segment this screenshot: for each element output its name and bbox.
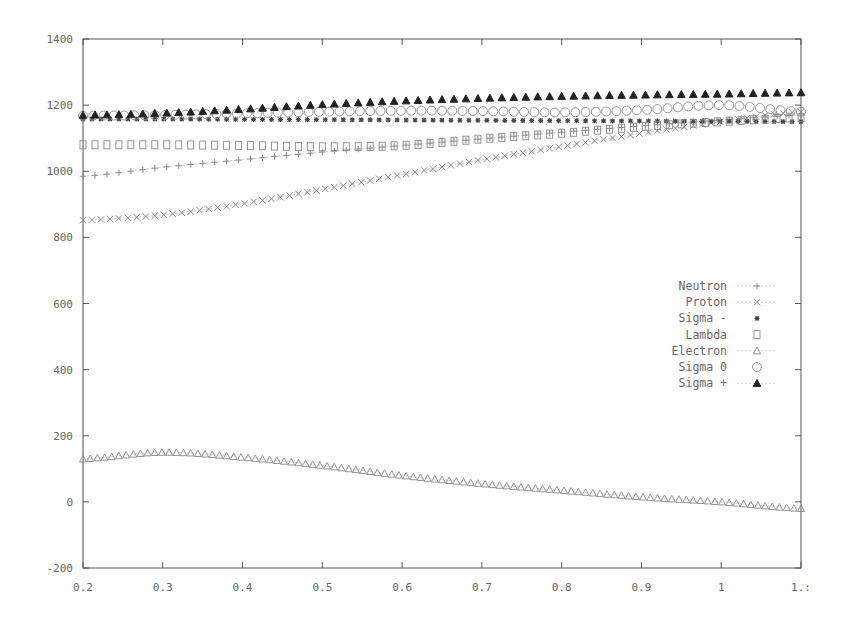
y-tick-label: 1400 bbox=[47, 33, 74, 46]
x-tick-label: 0.3 bbox=[153, 581, 173, 594]
x-tick-label: 0.9 bbox=[632, 581, 652, 594]
x-tick-label: 0.2 bbox=[73, 581, 93, 594]
series-proton bbox=[80, 109, 804, 224]
legend-label: Sigma 0 bbox=[679, 360, 728, 374]
legend-label: Proton bbox=[685, 295, 727, 309]
y-tick-label: 600 bbox=[53, 298, 73, 311]
x-tick-label: 0.7 bbox=[472, 581, 492, 594]
x-tick-label: 0.4 bbox=[233, 581, 253, 594]
legend-label: Electron bbox=[672, 344, 727, 358]
legend-item: Neutron bbox=[679, 279, 777, 293]
legend-item: Sigma 0 bbox=[679, 360, 762, 374]
x-tick-label: 0.6 bbox=[392, 581, 412, 594]
series-electron bbox=[80, 449, 805, 512]
y-tick-label: 400 bbox=[53, 364, 73, 377]
series-sigma-0 bbox=[79, 101, 806, 121]
legend-label: Sigma - bbox=[679, 311, 727, 325]
x-tick-label: 1.: bbox=[791, 581, 811, 594]
legend-label: Sigma + bbox=[679, 376, 728, 390]
y-tick-label: 200 bbox=[53, 430, 73, 443]
legend: NeutronProtonSigma -LambdaElectronSigma … bbox=[672, 279, 777, 390]
y-tick-label: 0 bbox=[66, 496, 73, 509]
series-sigma bbox=[79, 89, 805, 118]
legend-label: Neutron bbox=[679, 279, 727, 293]
x-tick-label: 0.5 bbox=[312, 581, 332, 594]
series-line bbox=[83, 452, 801, 508]
y-tick-label: 800 bbox=[53, 231, 73, 244]
y-tick-label: -200 bbox=[47, 562, 74, 575]
legend-item: Proton bbox=[685, 295, 777, 309]
plot-canvas: -2000200400600800100012001400 0.20.30.40… bbox=[0, 0, 841, 628]
x-tick-label: 1 bbox=[718, 581, 725, 594]
y-tick-label: 1200 bbox=[47, 99, 74, 112]
legend-item: Sigma + bbox=[679, 376, 777, 390]
legend-item: Sigma - bbox=[679, 311, 760, 325]
legend-item: Electron bbox=[672, 344, 777, 358]
legend-item: Lambda bbox=[685, 328, 760, 342]
legend-label: Lambda bbox=[685, 328, 727, 342]
y-tick-label: 1000 bbox=[47, 165, 74, 178]
x-tick-label: 0.8 bbox=[552, 581, 572, 594]
